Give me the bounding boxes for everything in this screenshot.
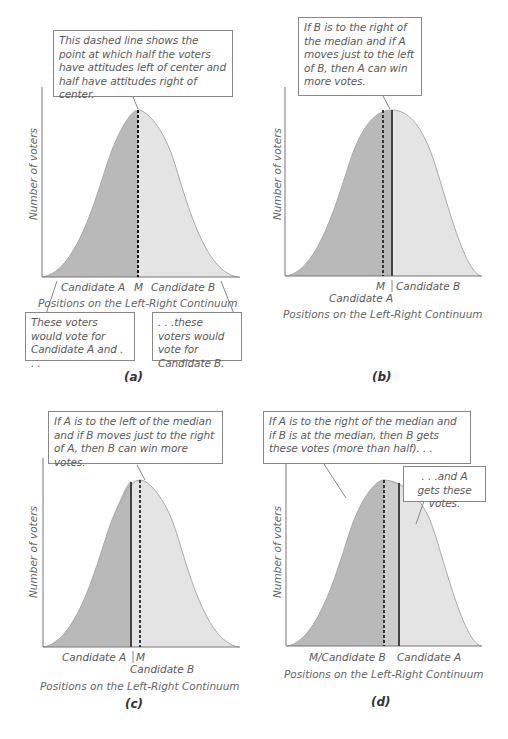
panel-d-label-median-candidate-b: M/Candidate B bbox=[309, 651, 386, 663]
panel-d-left-area bbox=[287, 480, 384, 646]
panel-d-middle-area bbox=[384, 480, 399, 646]
panel-d-xlabel: Positions on the Left-Right Continuum bbox=[284, 668, 484, 680]
panel-d-ylabel: Number of voters bbox=[271, 506, 283, 598]
panel-d-chart bbox=[0, 0, 508, 739]
panel-d-label-candidate-a: Candidate A bbox=[397, 651, 461, 663]
panel-d-caption: (d) bbox=[371, 695, 391, 709]
panel-d-note-top: If A is to the right of the median and i… bbox=[263, 411, 471, 464]
panel-d-note-top-pointer bbox=[324, 464, 346, 498]
panel-d-note-right: . . .and A gets these votes. bbox=[403, 466, 486, 502]
